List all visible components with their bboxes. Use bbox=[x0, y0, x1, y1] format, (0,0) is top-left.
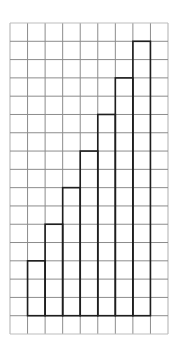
staircase-bar bbox=[45, 224, 63, 315]
staircase-bar bbox=[80, 151, 98, 316]
graph-paper-grid bbox=[0, 0, 180, 354]
staircase-bar bbox=[63, 188, 81, 316]
staircase-bar bbox=[133, 41, 151, 315]
staircase-bar bbox=[98, 114, 116, 315]
staircase-bar bbox=[115, 78, 133, 316]
staircase-bar bbox=[28, 261, 46, 316]
grid-diagram bbox=[0, 0, 180, 354]
staircase-outline bbox=[28, 41, 151, 315]
